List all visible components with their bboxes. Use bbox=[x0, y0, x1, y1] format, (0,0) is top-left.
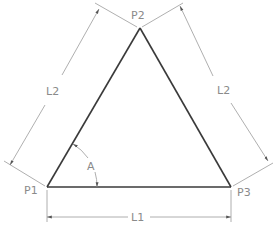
extension-line bbox=[142, 3, 183, 27]
point-label-p2: P2 bbox=[131, 9, 145, 22]
point-label-p3: P3 bbox=[237, 186, 251, 199]
extension-line bbox=[233, 163, 273, 186]
dimension-right-l2 bbox=[142, 3, 273, 186]
point-label-p1: P1 bbox=[24, 184, 38, 197]
dimension-line bbox=[10, 105, 45, 165]
triangle-diagram: L2 L2 L1 A P1 P2 P3 bbox=[0, 0, 277, 225]
dimension-label-right: L2 bbox=[217, 84, 230, 97]
dimension-label-left: L2 bbox=[46, 85, 59, 98]
angle-arc bbox=[73, 144, 88, 158]
dimension-line bbox=[180, 6, 213, 76]
angle-arc bbox=[95, 172, 97, 187]
angle-label: A bbox=[87, 160, 95, 173]
dimension-line bbox=[62, 9, 99, 75]
dimension-label-base: L1 bbox=[131, 211, 144, 224]
side-p2-p3 bbox=[140, 28, 231, 187]
dimension-left-l2 bbox=[4, 3, 137, 186]
dimension-line bbox=[231, 103, 268, 161]
